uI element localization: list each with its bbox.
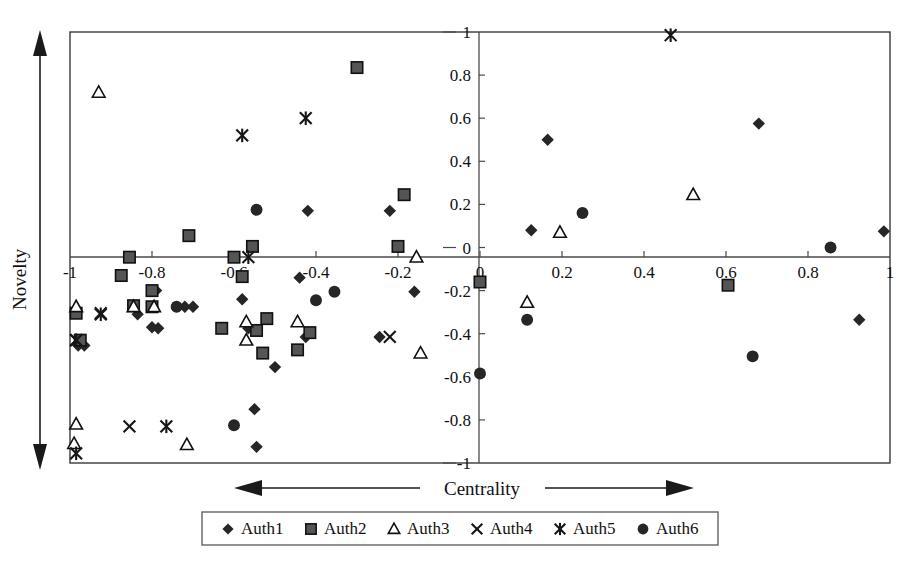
point-auth2 xyxy=(236,271,247,282)
legend-label: Auth6 xyxy=(656,519,699,538)
legend-item-auth1[interactable]: Auth1 xyxy=(222,519,283,538)
legend-item-auth2[interactable]: Auth2 xyxy=(306,519,367,538)
point-auth3 xyxy=(92,86,105,97)
legend-item-auth3[interactable]: Auth3 xyxy=(388,519,449,538)
point-auth1 xyxy=(384,205,396,217)
x-tick-label: 0.4 xyxy=(633,263,655,282)
y-tick-label: 0.6 xyxy=(450,109,471,128)
x-tick-label: 0.2 xyxy=(551,263,572,282)
point-auth1 xyxy=(373,331,385,343)
triangle-icon xyxy=(388,523,399,533)
series-auth4 xyxy=(70,307,395,432)
point-auth2 xyxy=(292,344,303,355)
y-tick-label: 0.4 xyxy=(450,152,472,171)
square-icon xyxy=(306,524,316,534)
point-auth3 xyxy=(414,347,427,358)
x-icon xyxy=(472,524,483,535)
point-auth2 xyxy=(351,62,362,73)
y-tick-label: -0.8 xyxy=(444,411,471,430)
x-tick-label: 0.8 xyxy=(797,263,818,282)
y-axis-tick-labels: -1-0.8-0.6-0.4-0.200.20.40.60.81 xyxy=(443,23,472,473)
legend-item-auth5[interactable]: Auth5 xyxy=(555,519,616,538)
circle-icon xyxy=(638,524,649,535)
point-auth2 xyxy=(722,280,733,291)
point-auth1 xyxy=(250,441,262,453)
star6-icon xyxy=(555,523,566,535)
point-auth2 xyxy=(216,323,227,334)
point-auth6 xyxy=(310,294,322,306)
x-tick-label: -1 xyxy=(63,263,77,282)
point-auth1 xyxy=(878,225,890,237)
point-auth1 xyxy=(853,313,865,325)
point-auth1 xyxy=(408,285,420,297)
point-auth3 xyxy=(240,315,253,326)
y-tick-label: -0.4 xyxy=(444,325,471,344)
y-axis-title: Novelty xyxy=(9,248,30,310)
y-tick-label: 1 xyxy=(463,23,472,42)
point-auth6 xyxy=(577,207,589,219)
x-tick-label: -0.2 xyxy=(385,263,412,282)
point-auth3 xyxy=(687,188,700,199)
point-auth5 xyxy=(236,129,248,143)
chart-canvas: -1-0.8-0.6-0.4-0.200.20.40.60.81 -1-0.8-… xyxy=(0,0,923,574)
point-auth2 xyxy=(392,241,403,252)
series-auth2 xyxy=(70,62,733,359)
point-auth6 xyxy=(825,242,837,254)
point-auth6 xyxy=(474,368,486,380)
point-auth6 xyxy=(747,350,759,362)
point-auth1 xyxy=(541,134,553,146)
x-tick-label: -0.4 xyxy=(303,263,330,282)
point-auth1 xyxy=(248,403,260,415)
point-auth1 xyxy=(187,301,199,313)
y-tick-label: -1 xyxy=(457,454,471,473)
point-auth2 xyxy=(247,241,258,252)
diamond-icon xyxy=(222,523,233,534)
point-auth1 xyxy=(753,117,765,129)
series-auth5 xyxy=(70,28,676,460)
point-auth2 xyxy=(474,276,485,287)
point-auth5 xyxy=(300,111,312,125)
legend-label: Auth1 xyxy=(241,519,284,538)
legend-label: Auth3 xyxy=(407,519,450,538)
point-auth3 xyxy=(554,226,567,237)
point-auth5 xyxy=(665,28,677,42)
y-tick-label: -0.2 xyxy=(444,282,471,301)
point-auth3 xyxy=(181,438,194,449)
point-auth1 xyxy=(269,361,281,373)
point-auth5 xyxy=(95,308,107,322)
point-auth2 xyxy=(183,230,194,241)
point-auth2 xyxy=(398,189,409,200)
point-auth6 xyxy=(328,286,340,298)
legend-item-auth4[interactable]: Auth4 xyxy=(472,519,533,538)
legend-label: Auth2 xyxy=(324,519,367,538)
point-auth6 xyxy=(171,301,183,313)
point-auth2 xyxy=(116,270,127,281)
point-auth1 xyxy=(236,293,248,305)
x-axis-title: Centrality xyxy=(444,478,520,499)
point-auth3 xyxy=(291,315,304,326)
y-tick-label: 0 xyxy=(463,239,472,258)
x-tick-label: 1 xyxy=(886,263,895,282)
x-tick-label: -0.8 xyxy=(139,263,166,282)
point-auth1 xyxy=(525,224,537,236)
y-tick-label: -0.6 xyxy=(444,368,471,387)
point-auth1 xyxy=(302,205,314,217)
legend-item-auth6[interactable]: Auth6 xyxy=(638,519,699,538)
y-tick-label: 0.2 xyxy=(450,195,471,214)
y-tick-label: 0.8 xyxy=(450,66,471,85)
point-auth3 xyxy=(70,300,83,311)
point-auth4 xyxy=(124,420,136,432)
point-auth2 xyxy=(257,347,268,358)
legend-entries: Auth1Auth2Auth3Auth4Auth5Auth6 xyxy=(222,519,698,538)
point-auth2 xyxy=(146,285,157,296)
point-auth6 xyxy=(251,204,263,216)
point-auth2 xyxy=(124,251,135,262)
novelty-axis-arrow xyxy=(33,30,47,470)
point-auth3 xyxy=(521,296,534,307)
point-auth6 xyxy=(521,314,533,326)
point-auth5 xyxy=(70,447,82,461)
point-auth2 xyxy=(304,327,315,338)
point-auth6 xyxy=(228,419,240,431)
scatter-plot-figure: -1-0.8-0.6-0.4-0.200.20.40.60.81 -1-0.8-… xyxy=(0,0,923,574)
point-auth5 xyxy=(160,420,172,434)
